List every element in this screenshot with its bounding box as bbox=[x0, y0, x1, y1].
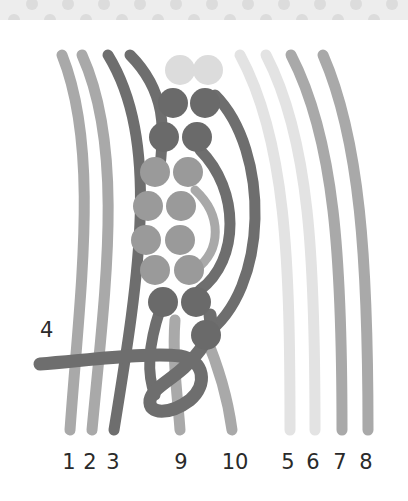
bead-top-right bbox=[193, 55, 223, 85]
strand-label: 7 bbox=[333, 452, 346, 473]
strand-1 bbox=[62, 55, 84, 430]
strand-label: 1 bbox=[62, 452, 75, 473]
strand-label: 2 bbox=[83, 452, 96, 473]
bead-top-left bbox=[165, 55, 195, 85]
inner-arc-2 bbox=[195, 190, 215, 270]
strand-label: 9 bbox=[174, 452, 187, 473]
macrame-knot-diagram bbox=[0, 0, 408, 501]
strand-label: 6 bbox=[306, 452, 319, 473]
strand-label: 3 bbox=[106, 452, 119, 473]
strand-labels: 1 2 3 9 10 5 6 7 8 bbox=[0, 452, 408, 482]
strand-label: 8 bbox=[359, 452, 372, 473]
strand-label: 10 bbox=[222, 452, 249, 473]
step-number: 4 bbox=[40, 318, 53, 342]
strand-label: 5 bbox=[281, 452, 294, 473]
